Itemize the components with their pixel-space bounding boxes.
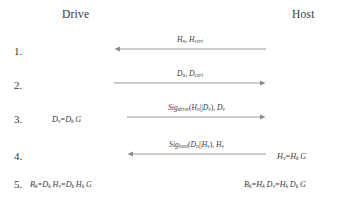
message-row-3: Sigdrive(Hn||Dv), Dv: [127, 96, 266, 122]
message-row-1: Hn, Hcert: [114, 28, 266, 54]
step-number-3: 3.: [14, 113, 22, 125]
arrow-right-icon-3: [127, 112, 266, 122]
step-number-4: 4.: [14, 150, 22, 162]
step-number-1: 1.: [14, 45, 22, 57]
arrow-right-icon-2: [114, 78, 266, 88]
message-row-4: Sighost(Dn||Hv), Hv: [127, 133, 266, 159]
participant-label-host: Host: [292, 8, 315, 20]
participant-label-drive: Drive: [62, 8, 89, 20]
drive-expression-5: Bk=Dk Hv=Dk Hk G: [30, 180, 92, 189]
host-expression-4: Hv=Hk G: [277, 152, 306, 161]
arrow-left-icon-1: [114, 44, 266, 54]
protocol-sequence-diagram: Drive Host 1. Hn, Hcert 2. Dn, Dcert 3. …: [0, 0, 364, 200]
message-row-2: Dn, Dcert: [114, 62, 266, 88]
drive-expression-3: Dv=Dk G: [52, 115, 81, 124]
host-expression-5: Bk=Hk Dv=Hk Dk G: [244, 180, 306, 189]
arrow-left-icon-4: [127, 149, 266, 159]
step-number-2: 2.: [14, 79, 22, 91]
step-number-5: 5.: [14, 178, 22, 190]
